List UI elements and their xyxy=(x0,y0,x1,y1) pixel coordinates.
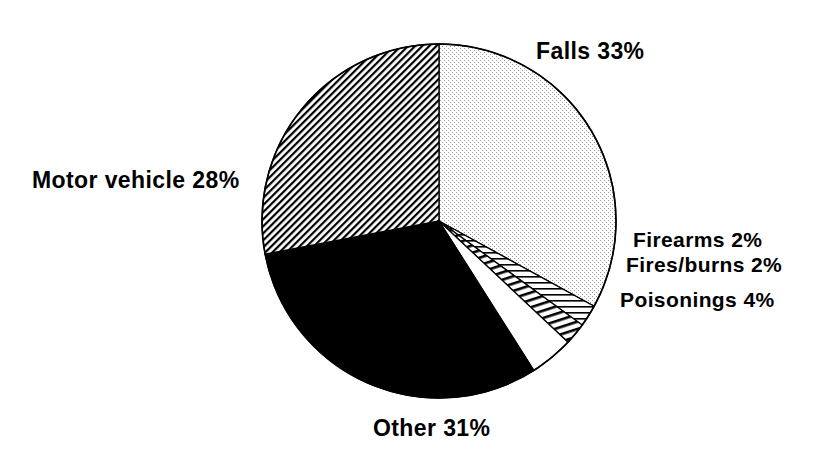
pie-label-motor-vehicle: Motor vehicle 28% xyxy=(32,168,239,193)
pie-label-firearms: Firearms 2% xyxy=(633,228,762,251)
pie-label-fires-burns: Fires/burns 2% xyxy=(626,253,782,276)
pie-label-other: Other 31% xyxy=(373,416,490,441)
pie-slices-group xyxy=(262,44,616,398)
pie-chart-figure: Falls 33% Motor vehicle 28% Firearms 2% … xyxy=(0,0,837,459)
pie-label-poisonings: Poisonings 4% xyxy=(620,288,775,311)
pie-slice-motor-vehicle[interactable] xyxy=(262,44,439,254)
pie-label-falls: Falls 33% xyxy=(536,39,644,64)
